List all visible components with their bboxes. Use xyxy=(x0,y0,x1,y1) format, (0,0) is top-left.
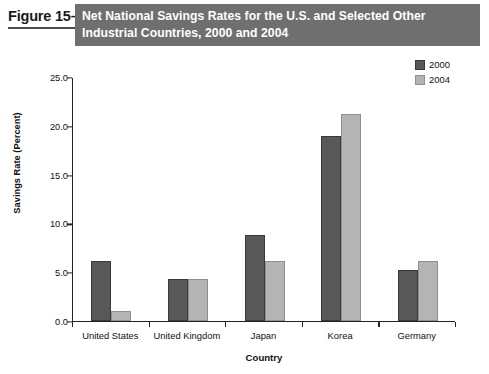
x-axis-tick-labels: United StatesUnited KingdomJapanKoreaGer… xyxy=(72,330,456,346)
x-axis-tick-mark xyxy=(378,322,379,327)
legend-label-2000: 2000 xyxy=(429,59,450,70)
y-axis-tick-label: 5.0 xyxy=(34,268,68,278)
x-axis-tick-label: Korea xyxy=(328,330,353,341)
figure-title-line-1: Net National Savings Rates for the U.S. … xyxy=(82,8,472,25)
y-axis-tick-labels: 0.05.010.015.020.025.0 xyxy=(30,78,68,322)
legend-swatch-2004 xyxy=(415,75,425,85)
plot-area xyxy=(72,78,455,322)
bar-2004-united-kingdom xyxy=(188,279,208,321)
x-axis-tick-mark xyxy=(225,322,226,327)
figure-number-underline xyxy=(8,27,76,29)
y-axis-tick-label: 10.0 xyxy=(34,219,68,229)
bar-2000-japan xyxy=(245,235,265,321)
bar-chart: Savings Rate (Percent) 0.05.010.015.020.… xyxy=(0,46,489,374)
bar-2004-japan xyxy=(265,261,285,321)
figure-number: Figure 15–3 xyxy=(8,8,74,24)
y-axis-tick-label: 25.0 xyxy=(34,73,68,83)
figure-title-band: Net National Savings Rates for the U.S. … xyxy=(75,4,480,46)
x-axis-tick-label: Germany xyxy=(397,330,436,341)
x-axis-tick-label: United States xyxy=(82,330,138,341)
x-axis-tick-label: Japan xyxy=(251,330,277,341)
figure-page: Figure 15–3 Net National Savings Rates f… xyxy=(0,0,489,374)
x-axis-tick-mark xyxy=(455,322,456,327)
legend-label-2004: 2004 xyxy=(429,74,450,85)
bar-2000-korea xyxy=(321,136,341,321)
x-axis-tick-mark xyxy=(302,322,303,327)
x-axis-title: Country xyxy=(72,352,456,363)
y-axis-tick-label: 15.0 xyxy=(34,171,68,181)
legend-swatch-2000 xyxy=(415,60,425,70)
bar-2000-united-kingdom xyxy=(168,279,188,321)
bar-2000-germany xyxy=(398,270,418,321)
bar-2000-united-states xyxy=(91,261,111,321)
chart-legend: 20002004 xyxy=(415,58,481,88)
y-axis-title: Savings Rate (Percent) xyxy=(12,88,22,238)
x-axis-tick-label: United Kingdom xyxy=(154,330,221,341)
y-axis-tick-label: 0.0 xyxy=(34,317,68,327)
legend-item-2000: 2000 xyxy=(415,58,481,71)
x-axis-tick-mark xyxy=(72,322,73,327)
bar-2004-korea xyxy=(341,114,361,321)
bar-2004-united-states xyxy=(111,311,131,321)
legend-item-2004: 2004 xyxy=(415,73,481,86)
figure-title-line-2: Industrial Countries, 2000 and 2004 xyxy=(82,25,472,42)
y-axis-tick-label: 20.0 xyxy=(34,122,68,132)
bar-2004-germany xyxy=(418,261,438,321)
x-axis-tick-marks xyxy=(72,322,456,328)
x-axis-tick-mark xyxy=(149,322,150,327)
figure-header: Figure 15–3 Net National Savings Rates f… xyxy=(0,4,489,46)
